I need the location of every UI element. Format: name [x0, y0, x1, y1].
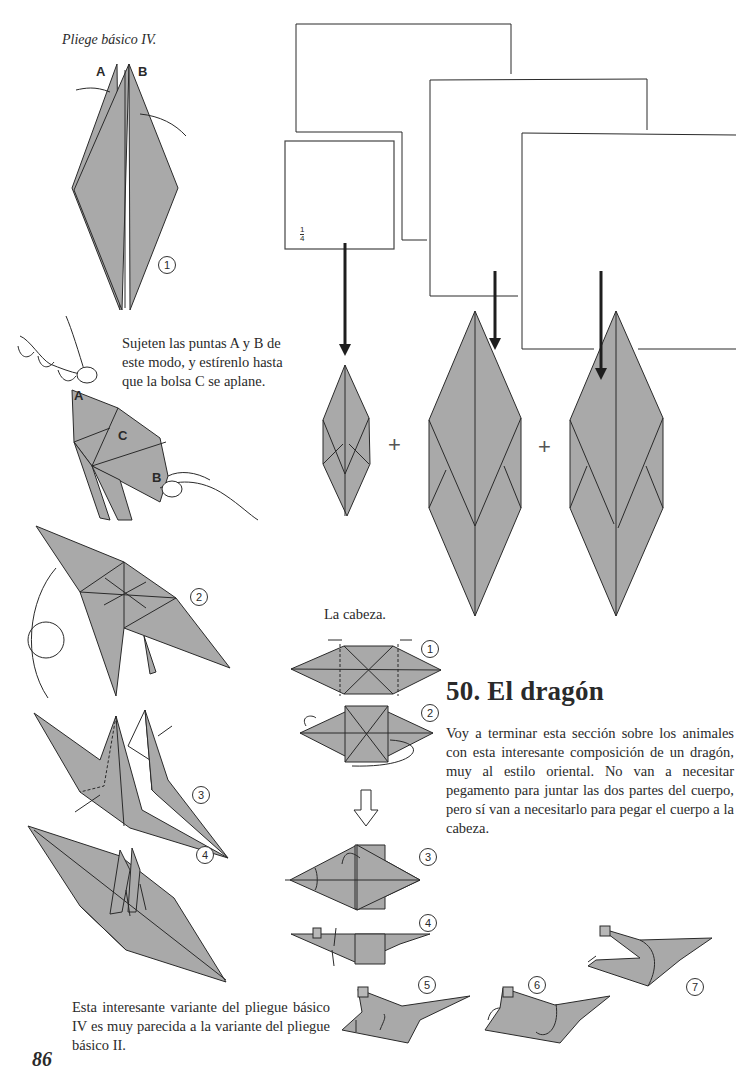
square-2-outline: [430, 79, 647, 296]
footer-note: Esta interesante variante del pliegue bá…: [72, 998, 330, 1055]
head-step-number-5: 5: [418, 976, 436, 994]
square-1-outline: [296, 24, 511, 132]
page-number: 86: [32, 1048, 52, 1071]
fraction-label: 1 4: [300, 226, 304, 243]
head-step-7: [588, 926, 712, 986]
head-step-5: [342, 987, 470, 1043]
step-number-3: 3: [192, 786, 210, 804]
squares-diagram: 1 4 + +: [0, 0, 736, 620]
head-step-3: [285, 845, 420, 910]
step4-diagram: 4: [0, 820, 260, 985]
head-step-6: [485, 987, 610, 1043]
article-paragraph: Voy a terminar esta sección sobre los an…: [446, 724, 734, 838]
article-heading: 50. El dragón: [446, 676, 604, 707]
head-step-number-6: 6: [528, 976, 546, 994]
step4-svg: [0, 820, 260, 985]
head-step-number-2: 2: [421, 704, 439, 722]
head-step-number-4: 4: [419, 914, 437, 932]
body-piece-medium: [429, 311, 521, 616]
hollow-down-arrow: [354, 790, 378, 826]
square-3-outline: [522, 133, 736, 349]
plus-sign-2: +: [538, 434, 551, 460]
head-step-1: [291, 640, 441, 696]
body-piece-small: [323, 365, 370, 516]
head-caption: La cabeza.: [324, 606, 386, 623]
plus-sign-1: +: [388, 432, 401, 458]
head-step-4: [291, 928, 430, 966]
body-piece-large: [570, 311, 663, 616]
head-step-number-7: 7: [686, 978, 704, 996]
head-step-number-3: 3: [419, 848, 437, 866]
head-step-2: [300, 706, 433, 766]
head-step-number-1: 1: [421, 640, 439, 658]
step-number-4: 4: [196, 846, 214, 864]
squares-svg: [0, 0, 736, 620]
